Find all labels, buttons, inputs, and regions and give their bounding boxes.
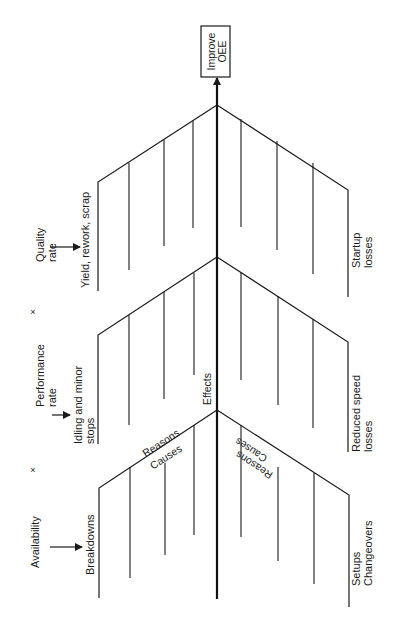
loss-label-right-3-line: Changeovers	[362, 520, 374, 586]
annotations: EffectsReasonsCausesCausesReasons	[140, 373, 274, 482]
goal-label-line: OEE	[216, 40, 228, 62]
bone-left-2	[98, 257, 217, 444]
diagram-svg: ImproveOEE Yield, rework, scrapStartuplo…	[0, 0, 400, 639]
factor-label-line: Performance	[34, 344, 46, 407]
factor-3: Availability	[29, 516, 82, 568]
loss-label-left-3-line: Breakdowns	[84, 514, 96, 575]
loss-label-right-3: SetupsChangeovers	[350, 520, 374, 586]
loss-label-right-1: Startuplosses	[350, 233, 374, 268]
bone-line	[98, 257, 217, 444]
multiply-icon: ×	[30, 465, 35, 475]
fishbone-diagram: ImproveOEE Yield, rework, scrapStartuplo…	[0, 0, 400, 639]
bone-right-1	[217, 105, 348, 297]
loss-label-left-1-line: Yield, rework, scrap	[79, 192, 91, 288]
loss-label-left-2-line: Idling and minor	[72, 365, 84, 444]
factor-label: Performancerate	[34, 344, 58, 407]
loss-label-right-2-line: losses	[362, 420, 374, 452]
loss-label-left-2-line: stops	[84, 417, 96, 444]
multiply-icon: ×	[30, 307, 35, 317]
loss-label-right-2-line: Reduced speed	[350, 375, 362, 452]
factor-label-line: Availability	[29, 516, 41, 568]
factor-2: Performancerate	[34, 344, 70, 415]
factor-label-line: rate	[46, 388, 58, 407]
goal-box-improve-oee: ImproveOEE	[201, 26, 230, 77]
loss-label-right-2: Reduced speedlosses	[350, 375, 374, 452]
loss-label-left-2: Idling and minorstops	[72, 365, 96, 444]
factor-1: Qualityrate	[34, 227, 80, 262]
loss-label-right-1-line: Startup	[350, 233, 362, 268]
branch-labels: Yield, rework, scrapStartuplossesIdling …	[72, 192, 374, 586]
loss-label-right-1-line: losses	[362, 236, 374, 268]
bone-line	[98, 105, 217, 291]
bone-line	[217, 105, 348, 297]
loss-label-right-3-line: Setups	[350, 551, 362, 586]
factor-label-line: Quality	[34, 227, 46, 262]
loss-label-left-1: Yield, rework, scrap	[79, 192, 91, 288]
annotation-effects: Effects	[201, 373, 213, 405]
loss-label-left-3: Breakdowns	[84, 514, 96, 575]
factor-label-line: rate	[46, 243, 58, 262]
bone-left-1	[98, 105, 217, 291]
branch-bones	[98, 105, 349, 607]
factor-label: Availability	[29, 516, 41, 568]
factor-label: Qualityrate	[34, 227, 58, 262]
